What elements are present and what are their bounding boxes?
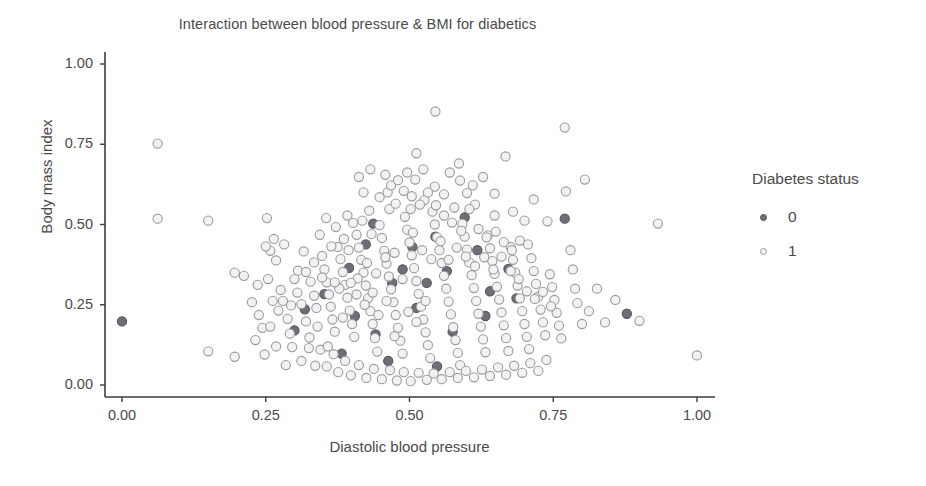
data-point bbox=[692, 351, 701, 360]
data-point bbox=[407, 251, 416, 260]
x-tick-label: 0.00 bbox=[92, 407, 152, 423]
data-point bbox=[230, 352, 239, 361]
y-tick-label: 0.75 bbox=[33, 135, 93, 151]
y-tick-label: 0.25 bbox=[33, 296, 93, 312]
data-point bbox=[495, 295, 504, 304]
data-point bbox=[411, 175, 420, 184]
data-point bbox=[469, 283, 478, 292]
data-point bbox=[309, 258, 318, 267]
data-point bbox=[479, 335, 488, 344]
data-point bbox=[453, 373, 462, 382]
data-point bbox=[312, 303, 321, 312]
data-point bbox=[465, 204, 474, 213]
data-point bbox=[491, 227, 500, 236]
y-tick-label: 0.00 bbox=[33, 376, 93, 392]
data-point bbox=[453, 348, 462, 357]
data-point bbox=[344, 246, 353, 255]
data-point bbox=[543, 217, 552, 226]
data-point bbox=[525, 344, 534, 353]
data-point bbox=[268, 296, 277, 305]
x-tick-label: 0.25 bbox=[236, 407, 296, 423]
data-points-layer bbox=[117, 107, 701, 386]
data-point bbox=[297, 356, 306, 365]
legend-item-label: 0 bbox=[788, 208, 797, 226]
data-point bbox=[454, 159, 463, 168]
data-point bbox=[362, 373, 371, 382]
data-point bbox=[489, 265, 498, 274]
data-point bbox=[531, 279, 540, 288]
data-point bbox=[375, 221, 384, 230]
data-point bbox=[653, 219, 662, 228]
data-point bbox=[457, 226, 466, 235]
data-point bbox=[392, 376, 401, 385]
data-point bbox=[393, 176, 402, 185]
data-point bbox=[381, 253, 390, 262]
data-point bbox=[504, 346, 513, 355]
data-point bbox=[451, 335, 460, 344]
data-point bbox=[318, 251, 327, 260]
data-point bbox=[442, 284, 451, 293]
data-point bbox=[414, 368, 423, 377]
data-point bbox=[554, 321, 563, 330]
data-point bbox=[548, 283, 557, 292]
data-point bbox=[407, 192, 416, 201]
data-point bbox=[263, 274, 272, 283]
data-point bbox=[304, 343, 313, 352]
data-point bbox=[485, 244, 494, 253]
data-point bbox=[560, 123, 569, 132]
data-point bbox=[481, 348, 490, 357]
data-point bbox=[439, 211, 448, 220]
data-point bbox=[404, 307, 413, 316]
data-point bbox=[153, 139, 162, 148]
data-point bbox=[412, 276, 421, 285]
data-point bbox=[328, 315, 337, 324]
data-point bbox=[435, 246, 444, 255]
data-point bbox=[324, 290, 333, 299]
data-point bbox=[367, 230, 376, 239]
data-point bbox=[261, 242, 270, 251]
data-point bbox=[501, 152, 510, 161]
x-tick-label: 1.00 bbox=[667, 407, 727, 423]
data-point bbox=[390, 248, 399, 257]
data-point bbox=[385, 366, 394, 375]
legend-item[interactable]: 0 bbox=[752, 200, 922, 234]
data-point bbox=[408, 228, 417, 237]
data-point bbox=[439, 190, 448, 199]
data-point bbox=[253, 280, 262, 289]
data-point bbox=[527, 254, 536, 263]
data-point bbox=[473, 246, 482, 255]
data-point bbox=[398, 349, 407, 358]
data-point bbox=[580, 175, 589, 184]
data-point bbox=[204, 216, 213, 225]
data-point bbox=[412, 149, 421, 158]
data-point bbox=[479, 172, 488, 181]
data-point bbox=[490, 189, 499, 198]
data-point bbox=[421, 328, 430, 337]
data-point bbox=[520, 319, 529, 328]
legend-item[interactable]: 1 bbox=[752, 234, 922, 268]
data-point bbox=[469, 373, 478, 382]
data-point bbox=[313, 322, 322, 331]
data-point bbox=[346, 371, 355, 380]
data-point bbox=[508, 255, 517, 264]
data-point bbox=[493, 363, 502, 372]
legend-marker-icon bbox=[752, 248, 774, 255]
data-point bbox=[522, 332, 531, 341]
data-point bbox=[391, 199, 400, 208]
data-point bbox=[400, 212, 409, 221]
data-point bbox=[350, 332, 359, 341]
data-point bbox=[444, 255, 453, 264]
data-point bbox=[445, 168, 454, 177]
data-point bbox=[359, 188, 368, 197]
data-point bbox=[490, 211, 499, 220]
data-point bbox=[354, 172, 363, 181]
data-point bbox=[526, 359, 535, 368]
data-point bbox=[456, 176, 465, 185]
data-point bbox=[480, 253, 489, 262]
data-point bbox=[366, 165, 375, 174]
circle-icon bbox=[760, 248, 767, 255]
data-point bbox=[377, 375, 386, 384]
data-point bbox=[426, 353, 435, 362]
data-point bbox=[309, 291, 318, 300]
data-point bbox=[431, 201, 440, 210]
